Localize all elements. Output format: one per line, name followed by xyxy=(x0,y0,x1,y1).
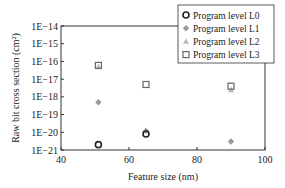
x-axis-label: Feature size (nm) xyxy=(128,171,198,183)
y-tick-label: 1E−14 xyxy=(31,21,58,32)
legend-entry: Program level L3 xyxy=(193,50,260,60)
y-tick-label: 1E−16 xyxy=(31,56,58,67)
x-tick-label: 60 xyxy=(124,154,134,165)
chart: 4060801001E−141E−151E−161E−171E−181E−191… xyxy=(0,0,285,188)
y-axis-label: Raw bit cross section (cm²) xyxy=(10,33,22,143)
data-point xyxy=(143,81,149,87)
data-point xyxy=(95,99,101,105)
data-point xyxy=(95,142,101,148)
y-tick-label: 1E−19 xyxy=(31,109,58,120)
legend-entry: Program level L0 xyxy=(193,11,260,21)
y-tick-label: 1E−15 xyxy=(31,38,58,49)
y-tick-label: 1E−17 xyxy=(31,74,58,85)
x-tick-label: 40 xyxy=(56,154,66,165)
y-tick-label: 1E−21 xyxy=(31,145,58,156)
x-tick-label: 80 xyxy=(192,154,202,165)
y-tick-label: 1E−20 xyxy=(31,127,58,138)
x-tick-label: 100 xyxy=(258,154,273,165)
legend-entry: Program level L2 xyxy=(193,37,260,47)
data-point xyxy=(228,138,234,144)
y-tick-label: 1E−18 xyxy=(31,91,58,102)
legend-entry: Program level L1 xyxy=(193,24,260,34)
